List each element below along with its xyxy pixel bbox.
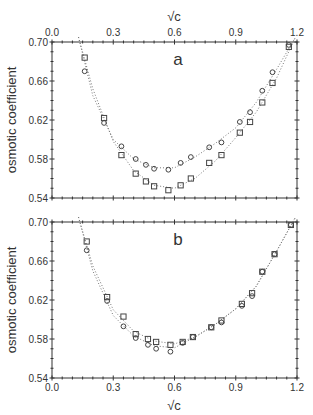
x-tick-label: 0.0 [45,382,59,393]
x-tick-label: 0.9 [229,382,243,393]
square-marker [188,176,193,181]
square-marker [154,339,159,344]
circle-marker [260,269,265,274]
y-tick-label: 0.54 [29,373,49,384]
square-marker [219,153,224,158]
x-tick-label: 0.6 [168,27,182,38]
square-marker [207,160,212,165]
bottom-axis-title: √c [167,398,181,413]
y-tick-label: 0.66 [29,76,49,87]
circle-marker [219,320,224,325]
circle-marker [272,252,277,257]
square-marker [260,100,265,105]
circle-marker [190,335,195,340]
circle-marker [239,303,244,308]
circle-marker [133,157,138,162]
circle-marker [121,324,126,329]
y-tick-label: 0.58 [29,154,49,165]
circle-marker [286,43,291,48]
circle-marker [270,70,275,75]
circle-marker [144,162,149,167]
panel-a: 0.00.30.60.91.20.540.580.620.660.70a [29,27,305,204]
square-marker [119,153,124,158]
circle-marker [168,349,173,354]
circle-marker [288,223,293,228]
x-tick-label: 1.2 [290,27,304,38]
y-tick-label: 0.54 [29,193,49,204]
circle-marker [248,110,253,115]
x-tick-label: 0.3 [106,382,120,393]
panel-b: 0.00.30.60.91.20.540.580.620.660.70b [29,217,305,394]
square-marker [166,188,171,193]
square-marker [237,130,242,135]
x-tick-label: 0.9 [229,27,243,38]
circle-marker [146,342,151,347]
ylabel-panel-b: osmotic coefficient [4,246,19,353]
panel-label: b [173,230,182,249]
y-tick-label: 0.62 [29,295,49,306]
circle-marker [82,69,87,74]
y-tick-label: 0.62 [29,115,49,126]
circle-marker [152,166,157,171]
squares-fit-curve [79,37,296,188]
square-marker [145,336,150,341]
x-tick-label: 0.3 [106,27,120,38]
y-tick-label: 0.66 [29,256,49,267]
y-tick-label: 0.58 [29,334,49,345]
square-marker [143,179,148,184]
x-tick-label: 1.2 [290,382,304,393]
circle-marker [237,120,242,125]
circles-fit-curve [79,37,296,168]
circles-fit-curve [79,217,296,348]
ylabel-panel-a: osmotic coefficient [4,66,19,173]
square-marker [168,342,173,347]
x-tick-label: 0.6 [168,382,182,393]
square-marker [84,239,89,244]
y-tick-label: 0.70 [29,217,49,228]
y-tick-label: 0.70 [29,37,49,48]
panel-label: a [173,50,183,69]
top-axis-title: √c [167,9,181,24]
circle-marker [209,325,214,330]
circle-marker [84,248,89,253]
circle-marker [154,346,159,351]
circle-marker [166,167,171,172]
circle-marker [119,144,124,149]
squares-fit-curve [79,217,296,344]
figure: √c √c osmotic coefficient osmotic coeffi… [0,0,313,415]
circle-marker [219,140,224,145]
